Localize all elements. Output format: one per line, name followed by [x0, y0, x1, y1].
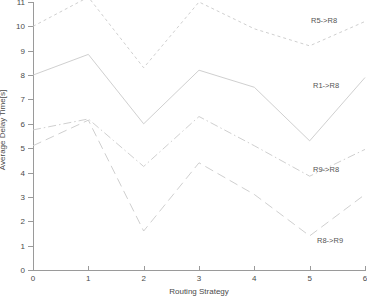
series-line-r5-r8	[33, 0, 365, 68]
series-annotation-r5-r8: R5->R8	[311, 16, 337, 25]
chart-figure: 01234567891011 0123456 Average Delay Tim…	[0, 0, 367, 301]
chart-lines	[0, 0, 367, 301]
series-annotation-r8-r9: R8->R9	[317, 236, 343, 245]
series-line-r1-r8	[33, 54, 365, 140]
series-annotation-r9-r8: R9->R8	[313, 165, 339, 174]
series-line-r8-r9	[33, 120, 365, 236]
series-annotation-r1-r8: R1->R8	[313, 81, 339, 90]
